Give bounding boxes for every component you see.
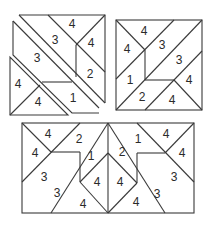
piece-label: 2	[87, 67, 94, 81]
piece-label: 4	[88, 36, 95, 50]
piece-label: 4	[32, 146, 39, 160]
figure-top-left	[10, 15, 105, 115]
piece-label: 4	[35, 95, 42, 109]
piece-label: 2	[139, 90, 146, 104]
piece-label: 4	[179, 146, 186, 160]
piece-label: 3	[159, 38, 166, 52]
piece-label: 4	[45, 127, 52, 141]
piece-label: 4	[141, 24, 148, 38]
piece-label: 4	[117, 175, 124, 189]
piece-label: 4	[15, 77, 22, 91]
piece-label: 4	[186, 73, 193, 87]
piece-label: 2	[119, 145, 126, 159]
piece-label: 2	[76, 132, 83, 146]
piece-label: 4	[133, 195, 140, 209]
piece-label: 4	[69, 17, 76, 31]
piece-label: 4	[124, 42, 131, 56]
piece-label: 1	[70, 91, 77, 105]
piece-label: 3	[171, 170, 178, 184]
piece-label: 3	[41, 170, 48, 184]
piece-labels: 44332144443341244421334414243434	[15, 17, 193, 211]
piece-label: 1	[88, 149, 95, 163]
piece-label: 3	[154, 187, 161, 201]
piece-label: 3	[34, 51, 41, 65]
piece-label: 3	[176, 53, 183, 67]
piece-label: 3	[54, 186, 61, 200]
piece-label: 3	[52, 33, 59, 47]
piece-label: 4	[94, 175, 101, 189]
piece-label: 4	[163, 127, 170, 141]
piece-label: 1	[127, 73, 134, 87]
figure-top-right	[116, 20, 202, 110]
piece-label: 1	[135, 132, 142, 146]
puzzle-diagram: 44332144443341244421334414243434	[0, 0, 213, 230]
piece-label: 4	[80, 197, 87, 211]
piece-label: 4	[169, 93, 176, 107]
